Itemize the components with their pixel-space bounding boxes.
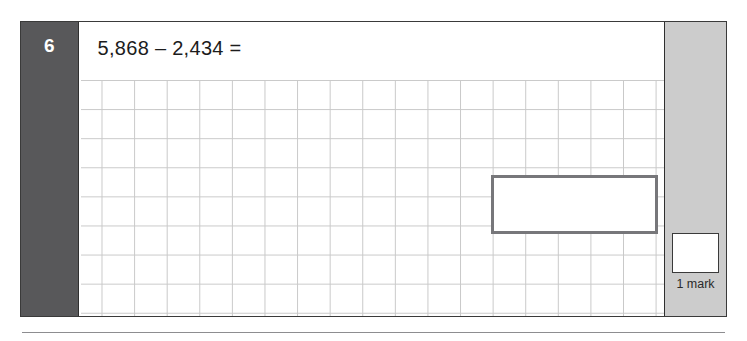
question-work-area: 5,868 – 2,434 = <box>81 22 665 316</box>
question-number: 6 <box>21 36 78 55</box>
worksheet-page: 6 5,868 – 2,434 = 1 mark <box>0 0 747 341</box>
answer-input-box[interactable] <box>491 175 658 234</box>
mark-label: 1 mark <box>665 278 726 291</box>
mark-column: 1 mark <box>664 22 726 316</box>
mark-score-box[interactable] <box>672 233 719 273</box>
page-divider-rule <box>22 332 725 333</box>
question-text: 5,868 – 2,434 = <box>98 37 242 60</box>
question-frame: 6 5,868 – 2,434 = 1 mark <box>20 21 727 317</box>
question-number-column: 6 <box>21 22 79 316</box>
